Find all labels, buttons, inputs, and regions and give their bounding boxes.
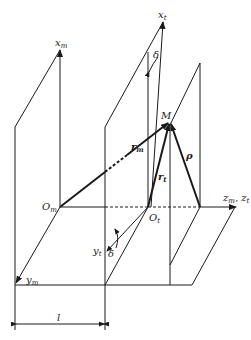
label-x-t: xt	[158, 9, 167, 22]
plane-right-bottom-edge	[170, 207, 200, 265]
plane-m-vertical	[15, 50, 60, 330]
label-M: M	[160, 110, 172, 121]
plane-right-top-edge	[170, 63, 200, 125]
label-O-t: Ot	[149, 212, 160, 225]
plane-m-top-edge	[15, 50, 60, 127]
label-O-m: Om	[42, 201, 57, 214]
y-m-axis	[16, 207, 60, 283]
label-z-axis: zm, zt	[222, 192, 250, 205]
label-delta-top: δ	[153, 49, 159, 60]
label-r-t: rt	[158, 171, 167, 184]
plane-t-vertical	[105, 22, 163, 330]
r-m-vector-dashed-part	[105, 155, 127, 172]
plane-t-top-edge	[105, 22, 163, 127]
horizontal-plane	[15, 207, 235, 285]
label-dimension-l: l	[57, 312, 60, 323]
label-rho: ρ	[185, 150, 193, 161]
label-delta-bottom: δ	[108, 248, 114, 259]
label-x-m: xm	[55, 37, 68, 50]
label-y-t: yt	[92, 245, 102, 258]
horizontal-plane-right-edge	[192, 207, 235, 285]
r-m-vector-solid-part	[60, 172, 105, 207]
plane-right-vertical	[170, 63, 200, 285]
coordinate-diagram: xm xt δ M rm ρ rt Om Ot zm, zt yt δ ym l	[0, 0, 251, 340]
rho-vector	[171, 124, 200, 207]
delta-bottom-arc	[115, 229, 118, 248]
